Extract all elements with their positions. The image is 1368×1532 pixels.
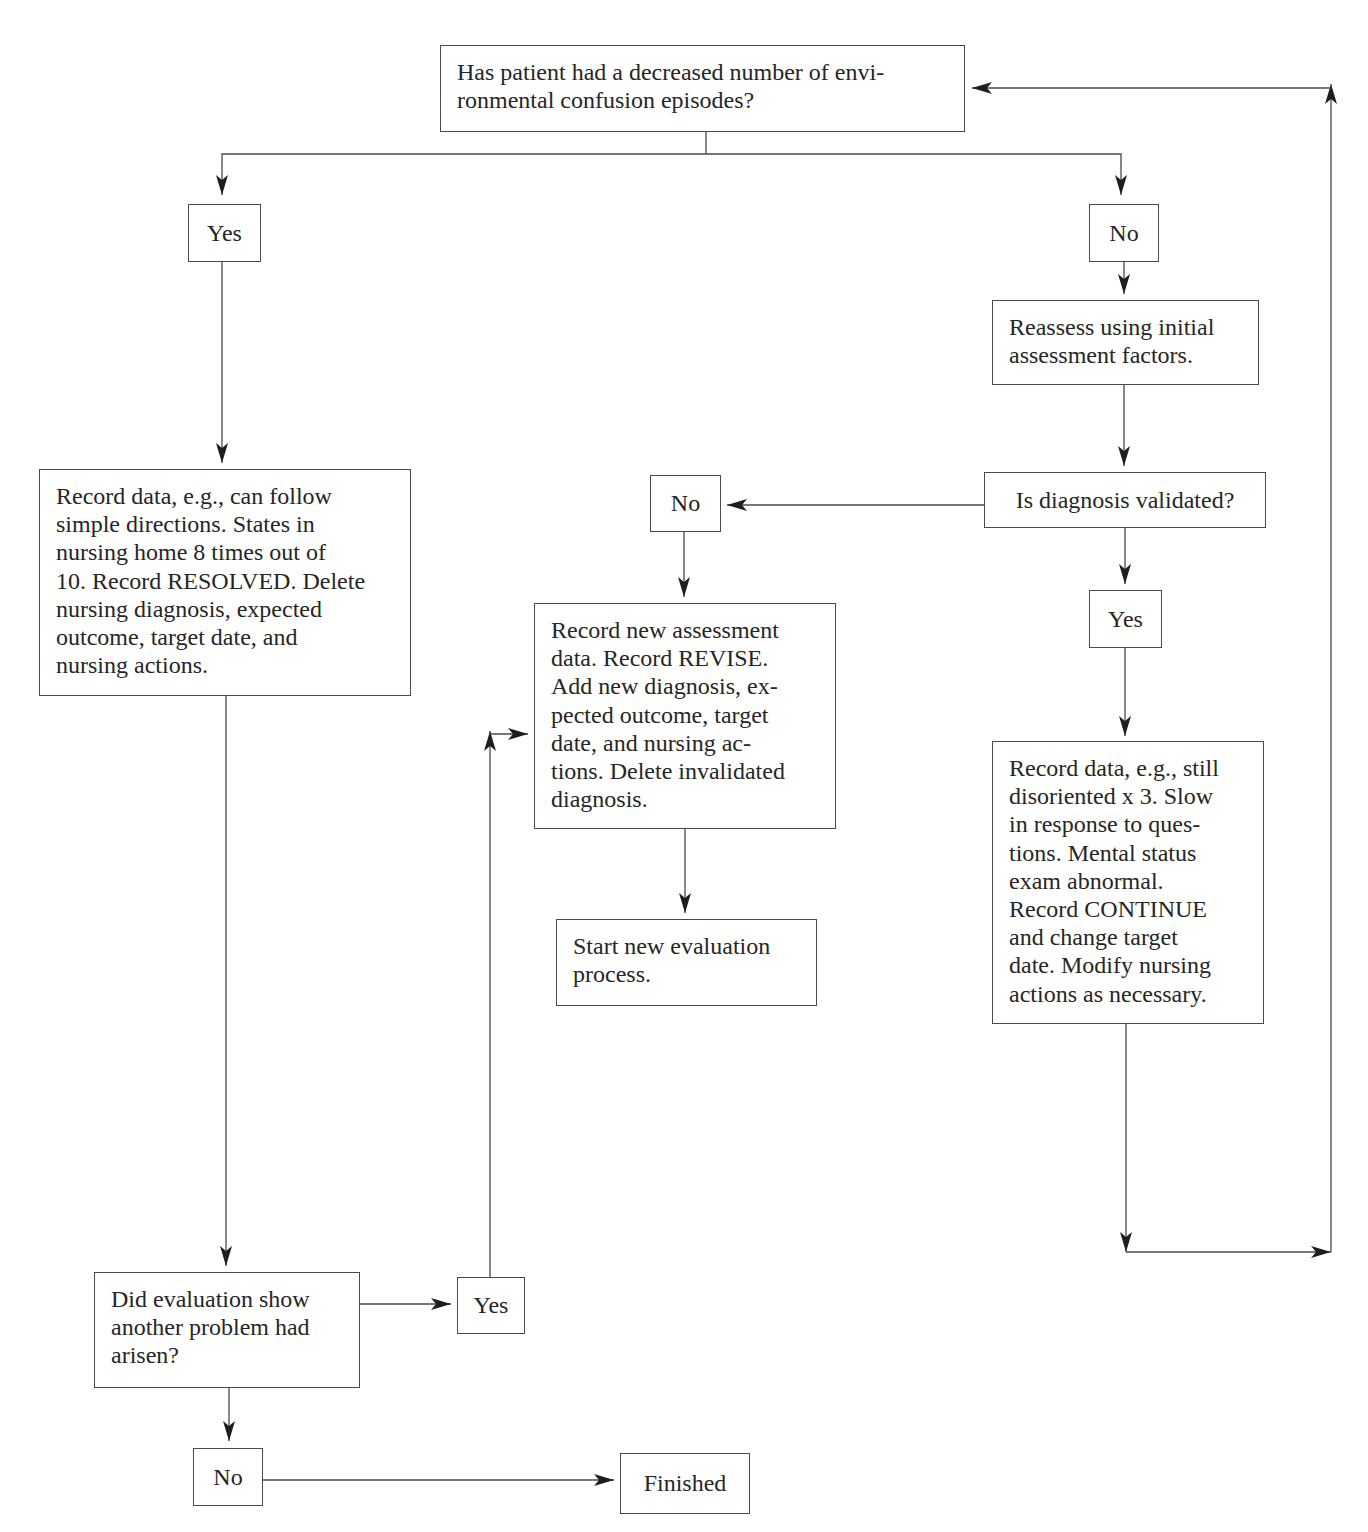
revise-line: Record new assessment <box>551 616 819 644</box>
record-continue-box: Record data, e.g., still disoriented x 3… <box>992 741 1264 1024</box>
question-line-1: Has patient had a decreased number of en… <box>457 58 948 86</box>
finished-label: Finished <box>644 1469 727 1497</box>
edge-to-yes-1 <box>222 154 706 195</box>
revise-line: Add new diagnosis, ex- <box>551 672 819 700</box>
flowchart-canvas: Has patient had a decreased number of en… <box>0 0 1368 1532</box>
question-decreased-confusion: Has patient had a decreased number of en… <box>440 45 965 132</box>
reassess-line-2: assessment factors. <box>1009 341 1242 369</box>
another-line-2: another problem had <box>111 1313 343 1341</box>
continue-line: Record data, e.g., still <box>1009 754 1247 782</box>
continue-line: in response to ques- <box>1009 810 1247 838</box>
record-revise-box: Record new assessment data. Record REVIS… <box>534 603 836 829</box>
resolved-line: outcome, target date, and <box>56 623 394 651</box>
revise-line: diagnosis. <box>551 785 819 813</box>
reassess-line-1: Reassess using initial <box>1009 313 1242 341</box>
no-box-3: No <box>193 1448 263 1506</box>
start-line-2: process. <box>573 960 800 988</box>
resolved-line: nursing diagnosis, expected <box>56 595 394 623</box>
resolved-line: Record data, e.g., can follow <box>56 482 394 510</box>
no-box-1: No <box>1089 204 1159 262</box>
resolved-line: simple directions. States in <box>56 510 394 538</box>
another-line-3: arisen? <box>111 1341 343 1369</box>
reassess-box: Reassess using initial assessment factor… <box>992 300 1259 385</box>
revise-line: tions. Delete invalidated <box>551 757 819 785</box>
no-label: No <box>213 1463 242 1491</box>
edge-to-no-1 <box>706 154 1121 195</box>
yes-box-2: Yes <box>1089 590 1162 648</box>
resolved-line: nursing actions. <box>56 651 394 679</box>
resolved-line: nursing home 8 times out of <box>56 538 394 566</box>
yes-label: Yes <box>207 219 242 247</box>
question-line-2: ronmental confusion episodes? <box>457 86 948 114</box>
question-diagnosis-validated: Is diagnosis validated? <box>984 472 1266 528</box>
no-box-2: No <box>650 475 721 532</box>
question-another-problem: Did evaluation show another problem had … <box>94 1272 360 1388</box>
no-label: No <box>671 489 700 517</box>
resolved-line: 10. Record RESOLVED. Delete <box>56 567 394 595</box>
finished-box: Finished <box>620 1453 750 1514</box>
continue-line: and change target <box>1009 923 1247 951</box>
continue-line: date. Modify nursing <box>1009 951 1247 979</box>
yes-box-1: Yes <box>188 204 261 262</box>
revise-line: date, and nursing ac- <box>551 729 819 757</box>
continue-line: tions. Mental status <box>1009 839 1247 867</box>
revise-line: data. Record REVISE. <box>551 644 819 672</box>
validated-label: Is diagnosis validated? <box>1016 486 1235 514</box>
no-label: No <box>1109 219 1138 247</box>
start-new-evaluation-box: Start new evaluation process. <box>556 919 817 1006</box>
record-resolved-box: Record data, e.g., can follow simple dir… <box>39 469 411 696</box>
continue-line: actions as necessary. <box>1009 980 1247 1008</box>
another-line-1: Did evaluation show <box>111 1285 343 1313</box>
revise-line: pected outcome, target <box>551 701 819 729</box>
yes-label: Yes <box>474 1291 509 1319</box>
continue-line: disoriented x 3. Slow <box>1009 782 1247 810</box>
start-line-1: Start new evaluation <box>573 932 800 960</box>
yes-label: Yes <box>1108 605 1143 633</box>
continue-line: Record CONTINUE <box>1009 895 1247 923</box>
yes-box-3: Yes <box>457 1277 525 1334</box>
continue-line: exam abnormal. <box>1009 867 1247 895</box>
